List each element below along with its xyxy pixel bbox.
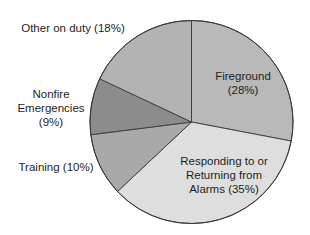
slice-label-line: Responding to or <box>180 155 268 167</box>
slice-label-line: Alarms (35%) <box>189 183 259 195</box>
pie-chart: Fireground(28%)Responding to orReturning… <box>0 0 310 235</box>
slice-label-line: Other on duty (18%) <box>21 22 125 34</box>
slice-label-training: Training (10%) <box>19 161 94 173</box>
slice-label-line: Nonfire <box>32 88 69 100</box>
slice-label-line: Returning from <box>186 169 262 181</box>
slice-label-line: Emergencies <box>17 102 84 114</box>
slice-label-line: Training (10%) <box>19 161 94 173</box>
slice-label-line: (9%) <box>39 116 63 128</box>
slice-label-responding-to-or-returning-from-alarms: Responding to orReturning fromAlarms (35… <box>180 155 268 195</box>
slice-label-line: (28%) <box>228 84 259 96</box>
slice-label-other-on-duty: Other on duty (18%) <box>21 22 125 34</box>
slice-label-nonfire-emergencies: NonfireEmergencies(9%) <box>17 88 84 128</box>
slice-label-line: Fireground <box>215 70 271 82</box>
